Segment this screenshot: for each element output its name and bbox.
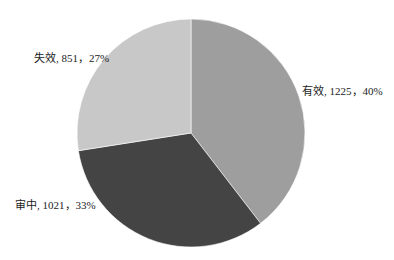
label-invalid: 失效, 851，27%	[34, 52, 109, 64]
label-valid: 有效, 1225，40%	[302, 85, 383, 97]
pie-chart	[0, 0, 394, 260]
slice-invalid	[77, 19, 191, 151]
label-pending: 审中, 1021，33%	[15, 199, 96, 211]
pie-slices	[77, 19, 305, 247]
